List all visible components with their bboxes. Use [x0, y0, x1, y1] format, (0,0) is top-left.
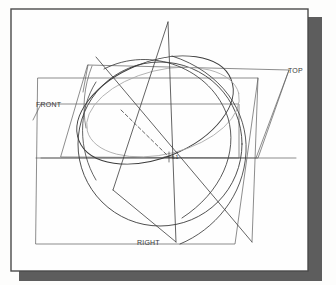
technical-drawing-canvas: TOP FRONT RIGHT L1	[0, 0, 336, 285]
label-center-point: L1	[172, 154, 179, 160]
label-front: FRONT	[36, 101, 62, 108]
label-right: RIGHT	[137, 239, 160, 246]
drawing-viewport: TOP FRONT RIGHT L1	[0, 0, 336, 285]
label-top: TOP	[288, 67, 303, 74]
